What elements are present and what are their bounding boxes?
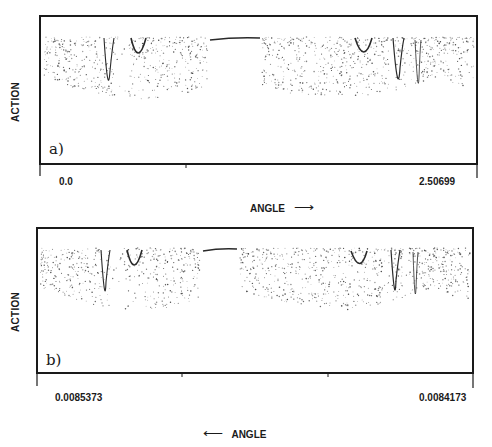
panel-b-tag: b) <box>46 351 61 369</box>
panel-b-scatter-dots <box>40 247 471 310</box>
arrow-left-icon: ⟵ <box>203 425 223 441</box>
panel-b-x-axis-title: ANGLE <box>231 429 266 440</box>
panel-b-x-tick-end: 0.0084173 <box>419 392 466 403</box>
panel-b-frame <box>37 228 473 373</box>
panel-b-plot <box>0 0 492 447</box>
panel-b-x-axis-label: ⟵ ANGLE <box>203 425 266 441</box>
panel-b-x-tick-start: 0.0085373 <box>55 392 102 403</box>
panel-b-resonance-curves <box>101 249 418 294</box>
panel-b-y-axis-label: ACTION <box>10 292 21 332</box>
